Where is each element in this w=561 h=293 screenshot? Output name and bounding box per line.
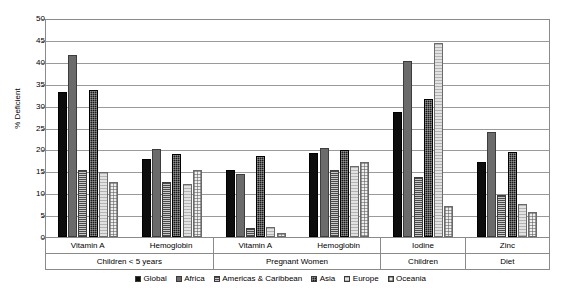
legend-item-oceania[interactable]: Oceania (388, 274, 426, 283)
supergroup-label: Children (381, 254, 464, 269)
bar-oceania[interactable] (444, 206, 453, 237)
bar-africa[interactable] (487, 132, 496, 237)
category-axis-table: Vitamin AHemoglobinChildren < 5 yearsVit… (45, 238, 550, 270)
legend-label: Asia (320, 274, 336, 283)
bar-group (465, 20, 549, 237)
bar-asia[interactable] (424, 99, 433, 237)
legend-item-europe[interactable]: Europe (344, 274, 378, 283)
supergroup-label: Pregnant Women (214, 254, 381, 269)
category-label: Hemoglobin (129, 238, 212, 253)
legend-swatch-global (135, 276, 141, 282)
bar-africa[interactable] (68, 55, 77, 237)
legend-label: Europe (353, 274, 379, 283)
bar-asia[interactable] (89, 90, 98, 237)
bar-global[interactable] (393, 112, 402, 237)
supergroup-cell: Vitamin AHemoglobinPregnant Women (214, 238, 382, 270)
bar-europe[interactable] (266, 227, 275, 237)
bar-americas[interactable] (497, 195, 506, 237)
bar-europe[interactable] (434, 43, 443, 237)
y-tick-label: 25 (5, 125, 45, 133)
legend-swatch-europe (344, 276, 350, 282)
bar-asia[interactable] (172, 154, 181, 237)
legend-label: Americas & Caribbean (222, 274, 302, 283)
bar-asia[interactable] (340, 150, 349, 237)
legend-swatch-americas (214, 276, 220, 282)
supergroup-label: Children < 5 years (46, 254, 213, 269)
bar-group (130, 20, 214, 237)
y-tick-label: 40 (5, 59, 45, 67)
bar-asia[interactable] (256, 156, 265, 237)
supergroup-cell: Vitamin AHemoglobinChildren < 5 years (45, 238, 214, 270)
bar-group (381, 20, 465, 237)
bar-americas[interactable] (330, 170, 339, 237)
y-tick-label: 15 (5, 168, 45, 176)
legend-label: Oceania (396, 274, 426, 283)
bar-americas[interactable] (162, 182, 171, 237)
y-tick-label: 5 (5, 212, 45, 220)
y-tick-label: 45 (5, 37, 45, 45)
legend-label: Africa (184, 274, 204, 283)
supergroup-cell: ZincDiet (466, 238, 550, 270)
bar-group (214, 20, 298, 237)
bar-americas[interactable] (414, 177, 423, 237)
y-tick-label: 10 (5, 190, 45, 198)
bar-oceania[interactable] (277, 233, 286, 237)
bar-groups (46, 20, 549, 237)
y-tick-label: 20 (5, 146, 45, 154)
legend-item-africa[interactable]: Africa (176, 274, 205, 283)
legend-swatch-africa (176, 276, 182, 282)
bar-global[interactable] (309, 153, 318, 237)
bar-europe[interactable] (183, 184, 192, 237)
y-tick-label: 0 (5, 234, 45, 242)
deficiency-bar-chart: % Deficient 05101520253035404550 Vitamin… (0, 0, 561, 293)
bar-global[interactable] (477, 162, 486, 237)
bar-group (297, 20, 381, 237)
bar-oceania[interactable] (109, 182, 118, 237)
category-label: Vitamin A (46, 238, 129, 253)
bar-africa[interactable] (403, 61, 412, 237)
bar-asia[interactable] (508, 152, 517, 237)
bar-americas[interactable] (78, 170, 87, 237)
bar-africa[interactable] (320, 148, 329, 237)
category-row: Vitamin AHemoglobin (214, 238, 381, 254)
y-tick-label: 50 (5, 15, 45, 23)
legend-swatch-oceania (388, 276, 394, 282)
category-label: Vitamin A (214, 238, 297, 253)
category-row: Zinc (466, 238, 549, 254)
bar-americas[interactable] (246, 228, 255, 237)
category-label: Hemoglobin (297, 238, 380, 253)
category-label: Zinc (466, 238, 549, 253)
category-label: Iodine (381, 238, 464, 253)
bar-africa[interactable] (152, 149, 161, 237)
bar-global[interactable] (58, 92, 67, 237)
legend-swatch-asia (311, 276, 317, 282)
bar-europe[interactable] (99, 172, 108, 237)
legend: GlobalAfricaAmericas & CaribbeanAsiaEuro… (0, 274, 561, 283)
category-row: Iodine (381, 238, 464, 254)
bar-africa[interactable] (236, 174, 245, 237)
legend-item-americas[interactable]: Americas & Caribbean (214, 274, 303, 283)
bar-oceania[interactable] (528, 212, 537, 237)
y-tick-label: 30 (5, 103, 45, 111)
bar-oceania[interactable] (193, 170, 202, 237)
bar-group (46, 20, 130, 237)
bar-europe[interactable] (518, 204, 527, 237)
category-row: Vitamin AHemoglobin (46, 238, 213, 254)
legend-item-asia[interactable]: Asia (311, 274, 335, 283)
supergroup-label: Diet (466, 254, 549, 269)
supergroup-cell: IodineChildren (381, 238, 465, 270)
bar-global[interactable] (142, 159, 151, 237)
legend-label: Global (144, 274, 167, 283)
y-tick-label: 35 (5, 81, 45, 89)
bar-oceania[interactable] (360, 162, 369, 237)
bar-europe[interactable] (350, 166, 359, 237)
legend-item-global[interactable]: Global (135, 274, 167, 283)
bar-global[interactable] (226, 170, 235, 237)
